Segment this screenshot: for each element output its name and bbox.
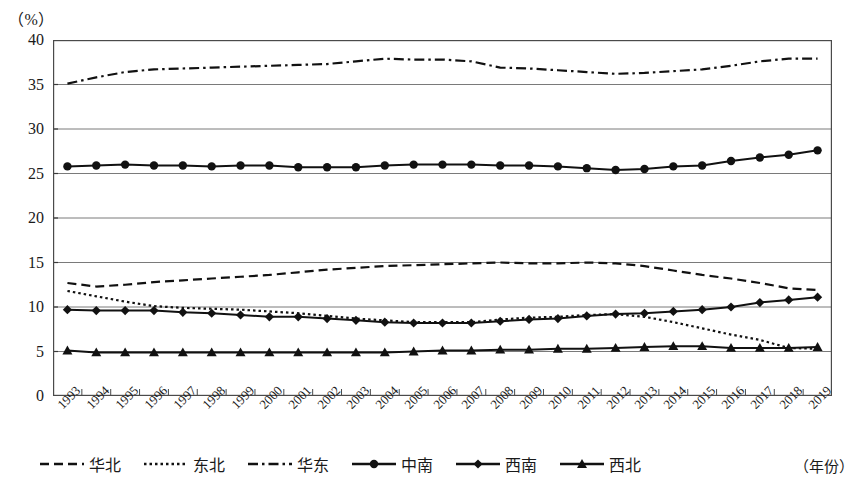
series-3	[67, 59, 817, 84]
data-point-marker	[553, 314, 562, 323]
data-point-marker	[294, 163, 302, 171]
chart-legend: 华北东北华东中南西南西北	[0, 452, 680, 476]
data-point-marker	[611, 166, 619, 174]
series-line	[67, 263, 817, 291]
data-point-marker	[496, 161, 504, 169]
data-point-marker	[755, 298, 764, 307]
legend-swatch-华北	[39, 456, 85, 472]
data-point-marker	[352, 163, 360, 171]
data-point-marker	[611, 310, 620, 319]
data-point-marker	[409, 160, 417, 168]
y-axis-tick-label: 30	[0, 121, 44, 137]
data-point-marker	[785, 151, 793, 159]
y-axis-tick-label: 15	[0, 255, 44, 271]
legend-item-西南: 西南	[455, 452, 537, 476]
data-point-marker	[150, 161, 158, 169]
data-point-marker	[63, 162, 71, 170]
data-point-marker	[323, 163, 331, 171]
y-axis-tick-label: 40	[0, 32, 44, 48]
data-point-marker	[121, 160, 129, 168]
data-point-marker	[380, 318, 389, 327]
legend-label: 西北	[609, 452, 641, 476]
legend-swatch-西南	[455, 456, 501, 472]
data-point-marker	[524, 315, 533, 324]
legend-item-华北: 华北	[39, 452, 121, 476]
data-point-marker	[582, 311, 591, 320]
plot-area	[53, 40, 832, 396]
data-point-marker	[496, 317, 505, 326]
data-point-marker	[698, 161, 706, 169]
data-point-marker	[467, 160, 475, 168]
data-point-marker	[207, 309, 216, 318]
legend-marker	[473, 459, 482, 468]
data-point-marker	[265, 161, 273, 169]
data-point-marker	[784, 295, 793, 304]
data-point-marker	[813, 293, 822, 302]
y-axis-tick-label: 25	[0, 166, 44, 182]
legend-label: 中南	[401, 452, 433, 476]
legend-swatch-华东	[247, 456, 293, 472]
legend-item-西北: 西北	[559, 452, 641, 476]
data-point-marker	[236, 310, 245, 319]
data-point-marker	[381, 161, 389, 169]
y-axis-unit-label: （%）	[8, 6, 55, 30]
data-point-marker	[178, 308, 187, 317]
legend-swatch-中南	[351, 456, 397, 472]
legend-item-华东: 华东	[247, 452, 329, 476]
legend-label: 华东	[297, 452, 329, 476]
series-5	[63, 293, 822, 328]
series-4	[63, 146, 822, 174]
legend-item-东北: 东北	[143, 452, 225, 476]
data-series-layer	[62, 59, 822, 357]
chart-container: （%） 0510152025303540 1993199419951996199…	[0, 0, 864, 486]
data-point-marker	[669, 307, 678, 316]
data-point-marker	[467, 318, 476, 327]
x-axis-name-label: （年份）	[794, 455, 854, 476]
data-point-marker	[92, 161, 100, 169]
legend-swatch-东北	[143, 456, 189, 472]
data-point-marker	[583, 164, 591, 172]
data-point-marker	[698, 305, 707, 314]
data-point-marker	[63, 305, 72, 314]
y-axis-tick-label: 10	[0, 299, 44, 315]
legend-item-中南: 中南	[351, 452, 433, 476]
data-point-marker	[640, 309, 649, 318]
data-point-marker	[294, 312, 303, 321]
data-point-marker	[756, 153, 764, 161]
data-point-marker	[236, 161, 244, 169]
data-point-marker	[409, 318, 418, 327]
data-point-marker	[438, 160, 446, 168]
series-line	[67, 59, 817, 84]
data-point-marker	[265, 312, 274, 321]
data-point-marker	[438, 318, 447, 327]
data-point-marker	[525, 161, 533, 169]
legend-label: 华北	[89, 452, 121, 476]
data-point-marker	[669, 162, 677, 170]
series-1	[67, 263, 817, 291]
y-axis-tick-label: 0	[0, 388, 44, 404]
data-point-marker	[207, 162, 215, 170]
data-point-marker	[554, 162, 562, 170]
y-axis-tick-label: 20	[0, 210, 44, 226]
data-point-marker	[351, 316, 360, 325]
legend-swatch-西北	[559, 456, 605, 472]
series-6	[62, 341, 822, 356]
legend-label: 东北	[193, 452, 225, 476]
y-axis-tick-label: 5	[0, 344, 44, 360]
data-point-marker	[179, 161, 187, 169]
data-point-marker	[813, 146, 821, 154]
y-axis-tick-label: 35	[0, 77, 44, 93]
legend-marker	[370, 460, 378, 468]
data-point-marker	[727, 157, 735, 165]
data-point-marker	[726, 302, 735, 311]
legend-label: 西南	[505, 452, 537, 476]
line-chart-svg	[53, 40, 832, 396]
data-point-marker	[640, 165, 648, 173]
